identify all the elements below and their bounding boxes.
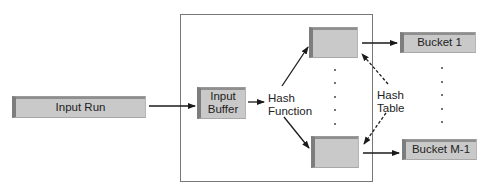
ellipsis-dot: [334, 109, 336, 111]
ellipsis-dot: [441, 81, 443, 83]
ellipsis-dot: [334, 69, 336, 71]
bucket-1-label: Bucket 1: [417, 36, 462, 49]
ellipsis-dot: [441, 108, 443, 110]
input-buffer-label-line2: Buffer: [208, 103, 238, 116]
ellipsis-dot: [334, 96, 336, 98]
hash-function-line2: Function: [268, 105, 312, 118]
hash-slot-top: [309, 27, 358, 58]
ellipsis-dot: [334, 123, 336, 125]
bucket-m1-box: Bucket M-1: [402, 139, 477, 160]
hash-table-label: Hash Table: [377, 89, 405, 115]
dashed-arrow-hashtable-to-bottom-slot: [364, 113, 386, 144]
dashed-arrow-hashtable-to-top-slot: [362, 54, 388, 84]
bucket-m1-label: Bucket M-1: [412, 143, 470, 156]
bucket-1-box: Bucket 1: [400, 32, 476, 53]
ellipsis-dot: [441, 121, 443, 123]
input-buffer-label-line1: Input: [210, 90, 236, 103]
hash-function-line1: Hash: [268, 92, 312, 105]
ellipsis-dot: [441, 67, 443, 69]
input-buffer-box: Input Buffer: [197, 87, 246, 119]
arrow-hashfn-to-top-slot: [282, 47, 308, 86]
ellipsis-dot: [334, 82, 336, 84]
hash-table-line1: Hash: [377, 89, 405, 102]
input-run-box: Input Run: [12, 96, 146, 118]
hash-table-line2: Table: [377, 102, 405, 115]
arrow-hashfn-to-bottom-slot: [284, 117, 309, 148]
hash-slot-bottom: [311, 136, 359, 168]
input-run-label: Input Run: [56, 101, 106, 114]
ellipsis-dot: [441, 94, 443, 96]
hash-function-label: Hash Function: [268, 92, 312, 118]
